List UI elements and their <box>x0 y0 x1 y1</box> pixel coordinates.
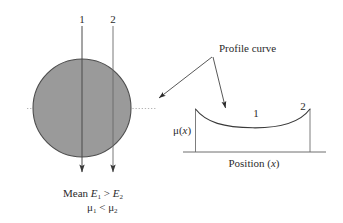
x-axis-label-close: ) <box>276 157 280 170</box>
x-axis-label: Position (x) <box>228 157 279 170</box>
svg-text:μ1 < μ2: μ1 < μ2 <box>87 201 118 215</box>
annotation-arrow-to-curve <box>213 57 226 108</box>
ray-label-2: 2 <box>110 13 116 25</box>
left-panel-group: 1 2 Mean E1 > E2 μ1 < μ2 <box>27 13 156 215</box>
right-panel-group: 1 2 μ(x) Position (x) <box>173 100 326 170</box>
annotation-arrow-to-object <box>159 57 212 98</box>
svg-text:Mean E1 > E2: Mean E1 > E2 <box>63 187 123 201</box>
caption-mu2-sub: 2 <box>114 207 118 215</box>
caption-mean-word: Mean <box>63 187 91 199</box>
annotation-label: Profile curve <box>219 42 276 54</box>
curve-label-1: 1 <box>253 107 259 119</box>
y-axis-label-mu: μ( <box>173 124 183 137</box>
y-axis-label: μ(x) <box>173 124 191 137</box>
ray-label-1: 1 <box>79 13 85 25</box>
caption-lt: < <box>96 201 108 213</box>
cupping-artifact-diagram: 1 2 Mean E1 > E2 μ1 < μ2 <box>0 0 343 223</box>
caption-e2-sub: 2 <box>119 193 123 201</box>
curve-label-2: 2 <box>300 100 306 112</box>
y-axis-label-close: ) <box>187 124 191 137</box>
figure-container: 1 2 Mean E1 > E2 μ1 < μ2 <box>0 0 343 223</box>
caption-gt: > <box>101 187 113 199</box>
left-caption-line-2: μ1 < μ2 <box>87 201 118 215</box>
x-axis-label-word: Position ( <box>228 157 271 170</box>
left-caption-line-1: Mean E1 > E2 <box>63 187 123 201</box>
profile-curve-annotation: Profile curve <box>159 42 276 108</box>
